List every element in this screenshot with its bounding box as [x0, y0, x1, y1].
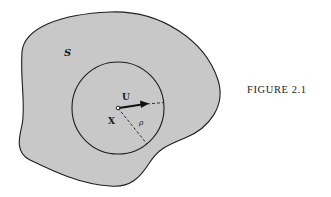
point-x-marker	[116, 106, 120, 110]
figure-caption: FIGURE 2.1	[247, 84, 307, 95]
diagram-canvas: S U X ρ	[0, 0, 331, 197]
vector-u-label: U	[122, 92, 130, 102]
region-s-label: S	[64, 47, 71, 58]
radius-rho-label: ρ	[138, 118, 144, 127]
point-x-label: X	[108, 116, 115, 126]
region-s-shape	[19, 12, 220, 186]
